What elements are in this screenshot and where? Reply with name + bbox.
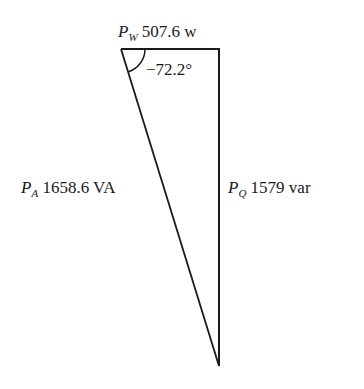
reactive-power-value: 1579 var <box>251 178 311 197</box>
apparent-power-subscript: A <box>31 187 38 199</box>
angle-value: −72.2° <box>146 60 192 79</box>
apparent-power-value: 1658.6 VA <box>42 178 115 197</box>
apparent-power-side <box>121 49 219 366</box>
real-power-value: 507.6 w <box>142 22 197 41</box>
reactive-power-label: PQ 1579 var <box>228 178 311 198</box>
apparent-power-label: PA 1658.6 VA <box>21 178 115 198</box>
real-power-subscript: W <box>128 31 137 43</box>
angle-label: −72.2° <box>146 60 192 80</box>
real-power-label: PW 507.6 w <box>118 22 197 42</box>
apparent-power-symbol: P <box>21 178 31 197</box>
real-power-symbol: P <box>118 22 128 41</box>
angle-arc <box>128 49 145 72</box>
reactive-power-symbol: P <box>228 178 238 197</box>
reactive-power-subscript: Q <box>238 187 246 199</box>
